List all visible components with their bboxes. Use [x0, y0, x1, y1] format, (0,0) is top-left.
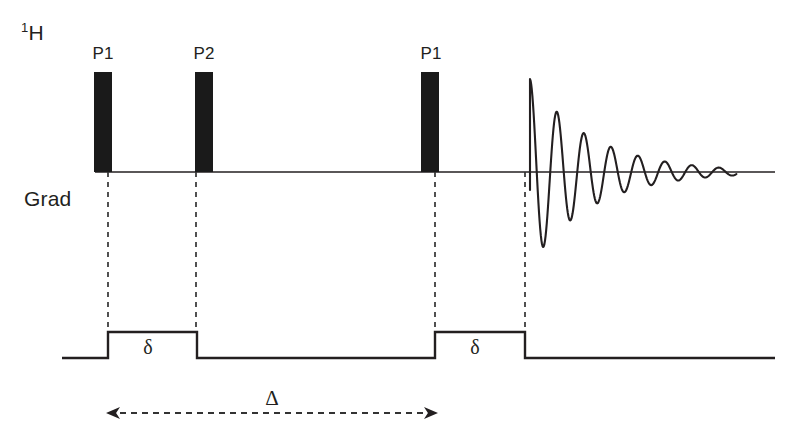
rf-channel-group	[94, 72, 775, 247]
gradient-waveform	[62, 332, 775, 358]
delta-arrow-head-left	[106, 407, 120, 419]
pulse-sequence-diagram: 1H Grad P1 P2 P1 δ δ Δ	[0, 0, 797, 441]
delta-arrow-head-right	[424, 407, 438, 419]
fid-decay-curve	[530, 79, 736, 247]
rf-pulse-p2	[195, 72, 213, 172]
pulse-label-p2: P2	[180, 44, 228, 64]
pulse-sequence-canvas	[0, 0, 797, 441]
grad-channel-group	[62, 332, 775, 358]
rf-pulse-p1-second	[421, 72, 439, 172]
rf-pulse-p1-first	[94, 72, 112, 172]
gradient-duration-label-first: δ	[128, 336, 168, 359]
proton-element-symbol: H	[28, 21, 43, 44]
channel-label-gradient: Grad	[24, 187, 72, 211]
dashed-connector-group	[108, 172, 525, 332]
pulse-label-p1-second: P1	[407, 44, 455, 64]
channel-label-proton: 1H	[21, 21, 44, 45]
diffusion-interval-label: Δ	[252, 386, 292, 411]
gradient-duration-label-second: δ	[455, 336, 495, 359]
pulse-label-p1-first: P1	[79, 44, 127, 64]
